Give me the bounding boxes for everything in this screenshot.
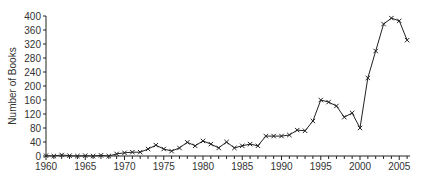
x-marker-icon [350, 111, 354, 115]
y-tick-label: 0 [35, 151, 41, 162]
y-tick-label: 280 [24, 53, 41, 64]
y-tick-label: 120 [24, 109, 41, 120]
x-tick-label: 1985 [231, 161, 254, 172]
x-marker-icon [342, 115, 346, 119]
x-tick-label: 1960 [35, 161, 58, 172]
x-tick-label: 1975 [153, 161, 176, 172]
x-marker-icon [389, 16, 393, 20]
x-tick-label: 1980 [192, 161, 215, 172]
y-tick-label: 240 [24, 67, 41, 78]
x-marker-icon [193, 144, 197, 148]
x-tick-label: 2000 [349, 161, 372, 172]
x-marker-icon [201, 139, 205, 143]
x-marker-icon [217, 146, 221, 150]
y-axis-label: Number of Books [7, 47, 18, 124]
x-marker-icon [177, 146, 181, 150]
x-marker-icon [224, 140, 228, 144]
data-series [44, 16, 410, 158]
x-marker-icon [185, 140, 189, 144]
x-marker-icon [334, 104, 338, 108]
y-tick-label: 40 [30, 137, 42, 148]
y-axis: 04080120160200240280320360400 [24, 11, 46, 162]
y-tick-label: 400 [24, 11, 41, 22]
y-tick-label: 320 [24, 39, 41, 50]
line-chart: 04080120160200240280320360400 1960196519… [0, 0, 423, 181]
x-tick-label: 1995 [310, 161, 333, 172]
y-tick-label: 160 [24, 95, 41, 106]
x-marker-icon [209, 142, 213, 146]
x-marker-icon [311, 119, 315, 123]
x-marker-icon [405, 38, 409, 42]
x-tick-label: 1970 [113, 161, 136, 172]
y-tick-label: 80 [30, 123, 42, 134]
x-tick-label: 1965 [74, 161, 97, 172]
x-tick-label: 1990 [270, 161, 293, 172]
x-marker-icon [397, 19, 401, 23]
y-tick-label: 360 [24, 25, 41, 36]
x-tick-label: 2005 [388, 161, 411, 172]
series-line [46, 18, 407, 156]
x-marker-icon [146, 147, 150, 151]
y-tick-label: 200 [24, 81, 41, 92]
x-marker-icon [154, 143, 158, 147]
